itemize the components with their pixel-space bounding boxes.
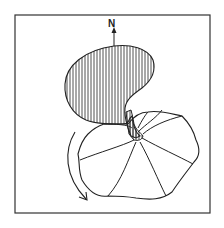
diagram-canvas bbox=[0, 0, 224, 228]
north-label: N bbox=[108, 18, 115, 29]
north-arrow-icon bbox=[112, 27, 117, 46]
curved-arrow-icon bbox=[68, 132, 87, 200]
scalloped-fan bbox=[78, 111, 199, 199]
hatched-neck bbox=[126, 110, 143, 140]
diagram-figure: N bbox=[0, 0, 224, 228]
